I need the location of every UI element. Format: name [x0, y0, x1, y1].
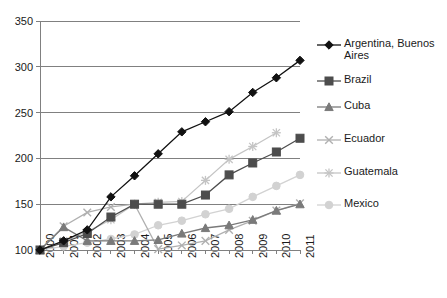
- series-ecuador: [36, 199, 304, 253]
- legend-label: Mexico: [342, 198, 444, 210]
- asterisk-marker-icon: [316, 166, 342, 180]
- line-chart: 100150200250300350 200020012002200320042…: [0, 0, 447, 298]
- legend-label: Brazil: [342, 74, 444, 86]
- legend-label: Ecuador: [342, 133, 444, 145]
- legend-item-mexico[interactable]: Mexico: [316, 198, 444, 212]
- series-argentina-buenos-aires: [36, 56, 304, 254]
- legend-item-ecuador[interactable]: Ecuador: [316, 133, 444, 147]
- legend-item-cuba[interactable]: Cuba: [316, 100, 444, 114]
- series-cuba: [36, 200, 304, 254]
- legend-item-brazil[interactable]: Brazil: [316, 74, 444, 88]
- legend-label: Guatemala: [342, 166, 444, 178]
- axis-lines: [40, 21, 300, 250]
- legend-item-guatemala[interactable]: Guatemala: [316, 166, 444, 180]
- circle-marker-icon: [316, 198, 342, 212]
- legend-label: Argentina, Buenos Aires: [342, 38, 444, 61]
- legend-item-argentina-buenos-aires[interactable]: Argentina, Buenos Aires: [316, 38, 444, 52]
- series-mexico: [36, 171, 304, 254]
- triangle-marker-icon: [316, 100, 342, 114]
- diamond-marker-icon: [316, 38, 342, 52]
- legend-label: Cuba: [342, 100, 444, 112]
- gridlines: [40, 21, 300, 250]
- square-marker-icon: [316, 74, 342, 88]
- series-layer: [36, 56, 305, 254]
- x-marker-icon: [316, 133, 342, 147]
